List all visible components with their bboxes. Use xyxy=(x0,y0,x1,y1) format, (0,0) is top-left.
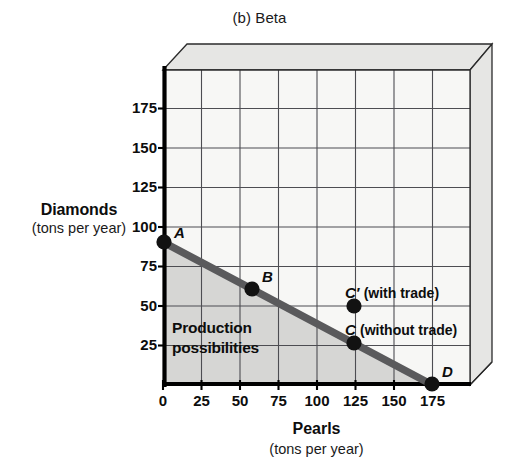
region-label-line1: Production xyxy=(172,319,252,336)
x-tick-150: 150 xyxy=(374,392,414,409)
box-right-face xyxy=(470,44,492,385)
production-possibilities-label: Production possibilities xyxy=(172,318,322,358)
point-d-marker[interactable] xyxy=(424,376,439,391)
point-a-label: A xyxy=(174,224,185,241)
point-c-prime-note: (with trade) xyxy=(364,285,439,301)
x-tick-100: 100 xyxy=(297,392,337,409)
x-tick-125: 125 xyxy=(336,392,376,409)
point-c-letter: C xyxy=(345,321,356,338)
x-tick-50: 50 xyxy=(220,392,260,409)
y-tick-175: 175 xyxy=(107,100,157,116)
region-label-line2: possibilities xyxy=(172,339,259,356)
x-axis-title: Pearls (tons per year) xyxy=(163,419,470,459)
y-tick-75: 75 xyxy=(107,258,157,274)
y-tick-150: 150 xyxy=(107,140,157,156)
point-c-prime-letter: C xyxy=(345,284,356,301)
x-tick-175: 175 xyxy=(413,392,453,409)
point-d-label: D xyxy=(442,363,453,380)
y-tick-125: 125 xyxy=(107,179,157,195)
point-c-note: (without trade) xyxy=(360,322,457,338)
y-axis-title-sub: (tons per year) xyxy=(8,219,150,238)
point-b-label: B xyxy=(262,268,273,285)
x-tick-75: 75 xyxy=(259,392,299,409)
y-axis-title: Diamonds (tons per year) xyxy=(8,200,150,238)
box-top-face xyxy=(163,44,492,70)
chart-figure: (b) Beta xyxy=(0,0,519,470)
point-a-marker[interactable] xyxy=(156,234,171,249)
point-b-marker[interactable] xyxy=(244,281,259,296)
x-tick-25: 25 xyxy=(182,392,222,409)
point-c-label: C (without trade) xyxy=(345,321,457,338)
point-c-prime-label: C′ (with trade) xyxy=(345,284,439,301)
y-axis-title-main: Diamonds xyxy=(8,200,150,219)
y-tick-25: 25 xyxy=(107,337,157,353)
x-axis-title-sub: (tons per year) xyxy=(163,439,470,459)
point-c-prime-mark: ′ xyxy=(356,284,360,301)
x-axis-title-main: Pearls xyxy=(163,419,470,439)
y-tick-50: 50 xyxy=(107,298,157,314)
x-tick-0: 0 xyxy=(143,392,183,409)
